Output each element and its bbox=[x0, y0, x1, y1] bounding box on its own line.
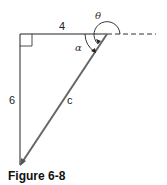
figure-caption: Figure 6-8 bbox=[8, 169, 65, 183]
label-alpha: α bbox=[75, 42, 82, 53]
label-hypotenuse-c: c bbox=[67, 94, 73, 106]
label-side-4: 4 bbox=[59, 20, 65, 32]
label-theta: θ bbox=[95, 10, 101, 21]
triangle-diagram: 4 6 c α θ bbox=[0, 0, 167, 185]
label-side-6: 6 bbox=[9, 94, 15, 106]
alpha-arrow-icon bbox=[91, 48, 96, 53]
right-angle-marker bbox=[20, 34, 32, 46]
hypotenuse-c bbox=[21, 34, 107, 164]
